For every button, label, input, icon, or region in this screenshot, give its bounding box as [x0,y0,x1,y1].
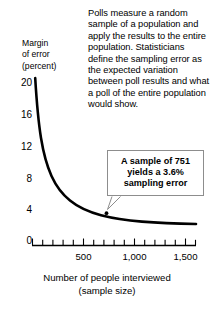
annotation-line-3: sampling error [111,178,200,189]
plot-area [0,0,214,260]
x-axis-caption: Number of people interviewed (sample siz… [7,272,207,297]
x-tick-label-1000: 1,000 [115,252,155,262]
plot-svg [0,0,214,260]
y-tick-label-16: 16 [12,110,32,120]
x-tick-label-500: 500 [64,252,104,262]
x-axis-ticks [33,239,196,246]
annotation-callout: A sample of 751 yields a 3.6% sampling e… [107,150,204,196]
x-tick-label-1500: 1,500 [166,252,206,262]
y-tick-label-20: 20 [12,78,32,88]
annotated-data-point [105,211,109,215]
callout-pointer [108,197,121,210]
y-tick-label-0: 0 [12,236,32,246]
y-tick-label-8: 8 [12,174,32,184]
sampling-error-chart-figure: Polls measure a random sample of a popul… [0,0,214,309]
annotation-line-2: yields a 3.6% [111,167,200,178]
x-axis-caption-line-1: Number of people interviewed [7,272,207,285]
y-tick-label-4: 4 [12,205,32,215]
y-tick-label-12: 12 [12,142,32,152]
x-axis-caption-line-2: (sample size) [7,285,207,298]
annotation-line-1: A sample of 751 [111,156,200,167]
